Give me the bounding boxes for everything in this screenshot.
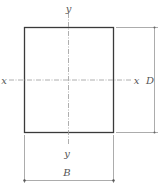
x-axis-right-label: x: [134, 75, 140, 86]
section-diagram: y y x x D B: [0, 0, 160, 186]
b-dimension-end-dot: [23, 179, 25, 181]
d-dimension-end-dot: [154, 27, 156, 29]
b-dimension-end-dot: [112, 179, 114, 181]
d-dimension-end-dot: [154, 132, 156, 134]
y-axis-bottom-label: y: [63, 148, 70, 159]
x-axis-left-label: x: [1, 75, 7, 86]
y-axis-top-label: y: [65, 3, 72, 14]
depth-dimension-label: D: [145, 75, 154, 86]
breadth-dimension-label: B: [62, 167, 70, 178]
